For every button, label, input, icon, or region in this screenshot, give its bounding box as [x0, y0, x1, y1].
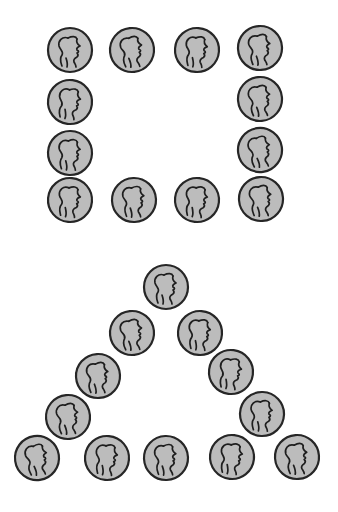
triangle-coin-8 [12, 433, 62, 483]
triangle-coin-11 [208, 433, 256, 481]
triangle-coin-12 [274, 434, 321, 481]
square-coin-6 [236, 75, 284, 123]
triangle-coin-5 [206, 347, 255, 396]
square-coin-11 [173, 176, 221, 224]
square-coin-9 [46, 176, 94, 224]
triangle-arrangement [12, 265, 320, 483]
square-coin-2 [108, 26, 156, 74]
square-coin-1 [48, 28, 92, 72]
square-coin-5 [45, 77, 94, 126]
triangle-coin-1 [144, 265, 188, 309]
triangle-coin-2 [108, 309, 156, 357]
triangle-coin-6 [44, 393, 92, 441]
triangle-coin-10 [143, 435, 189, 481]
square-coin-4 [237, 25, 283, 71]
coin-arrangement-diagram [0, 0, 338, 512]
square-coin-8 [235, 125, 285, 175]
square-coin-3 [174, 27, 221, 74]
triangle-coin-3 [177, 310, 224, 357]
triangle-coin-9 [83, 434, 131, 482]
triangle-coin-4 [75, 353, 121, 399]
triangle-coin-7 [239, 391, 285, 437]
square-coin-7 [47, 130, 93, 176]
square-coin-12 [238, 176, 285, 223]
square-arrangement [45, 25, 284, 224]
square-coin-10 [111, 177, 157, 223]
